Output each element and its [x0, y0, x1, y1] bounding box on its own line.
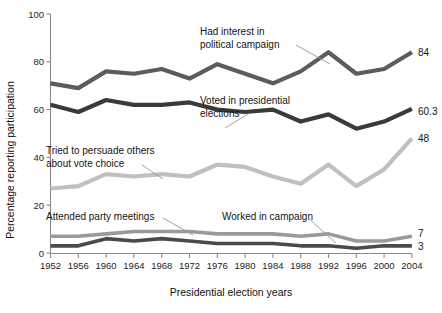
annotation-persuade-line2: about vote choice: [46, 158, 125, 169]
annotation-worked: Worked in campaign: [222, 211, 336, 243]
x-tick-2004: 2004: [401, 260, 422, 271]
annotation-had-interest: Had interest in political campaign: [200, 26, 330, 64]
x-tick-1996: 1996: [346, 260, 367, 271]
end-label-worked: 3: [418, 241, 424, 252]
annotation-had-interest-line2: political campaign: [200, 39, 280, 50]
end-label-meetings: 7: [418, 228, 424, 239]
x-tick-1964: 1964: [123, 260, 144, 271]
x-tick-1980: 1980: [235, 260, 256, 271]
y-tick-20: 20: [33, 200, 44, 211]
annotation-voted-line2: elections: [200, 108, 239, 119]
x-axis-title: Presidential election years: [170, 286, 293, 298]
x-tick-1988: 1988: [290, 260, 311, 271]
annotation-had-interest-line1: Had interest in: [200, 26, 264, 37]
x-tick-1968: 1968: [151, 260, 172, 271]
annotation-worked-leader: [308, 218, 336, 243]
y-tick-0: 0: [39, 248, 44, 259]
y-tick-100: 100: [28, 9, 44, 20]
x-tick-1960: 1960: [96, 260, 117, 271]
end-label-interest: 84: [418, 47, 430, 58]
y-axis-title: Percentage reporting participation: [4, 81, 16, 239]
x-tick-1952: 1952: [40, 260, 61, 271]
line-chart: Percentage reporting participation 100 8…: [0, 0, 442, 313]
end-label-persuade: 48: [418, 133, 430, 144]
y-axis-tick-labels: 100 80 60 40 20 0: [28, 9, 44, 259]
series-line-had-interest-in-political-campaign: [51, 52, 412, 88]
y-tick-80: 80: [33, 56, 44, 67]
annotation-voted-line1: Voted in presidential: [200, 95, 290, 106]
end-label-voted: 60.3: [418, 106, 438, 117]
x-tick-1992: 1992: [318, 260, 339, 271]
x-axis-ticks: [51, 254, 412, 259]
x-tick-1972: 1972: [179, 260, 200, 271]
y-tick-60: 60: [33, 104, 44, 115]
annotation-meetings-line1: Attended party meetings: [46, 211, 154, 222]
x-axis-tick-labels: 1952 1956 1960 1964 1968 1972 1976 1980 …: [40, 260, 423, 271]
annotation-persuade-line1: Tried to persuade others: [46, 145, 155, 156]
x-tick-2000: 2000: [374, 260, 395, 271]
x-tick-1976: 1976: [207, 260, 228, 271]
x-tick-1956: 1956: [68, 260, 89, 271]
y-tick-40: 40: [33, 152, 44, 163]
x-tick-1984: 1984: [262, 260, 283, 271]
annotation-worked-line1: Worked in campaign: [222, 211, 313, 222]
series-end-labels: 84 60.3 48 7 3: [418, 47, 438, 252]
chart-container: Percentage reporting participation 100 8…: [0, 0, 442, 313]
